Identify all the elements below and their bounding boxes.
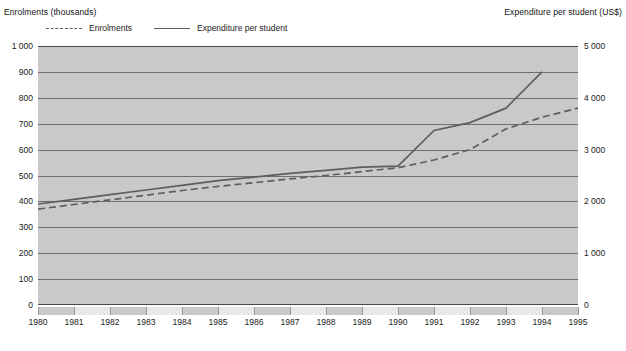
x-axis-tick bbox=[398, 307, 399, 315]
solid-line-icon bbox=[154, 28, 190, 29]
right-tick-label: 5 000 bbox=[584, 42, 605, 51]
left-tick-label: 700 bbox=[19, 120, 33, 129]
right-tick-label: 2 000 bbox=[584, 197, 605, 206]
left-tick-label: 100 bbox=[19, 275, 33, 284]
right-tick-label: 1 000 bbox=[584, 249, 605, 258]
x-tick-label: 1982 bbox=[101, 318, 120, 327]
left-tick-label: 1 000 bbox=[12, 42, 33, 51]
x-axis-band bbox=[38, 307, 74, 315]
x-axis-tick bbox=[290, 307, 291, 315]
x-tick-label: 1984 bbox=[173, 318, 192, 327]
left-tick-label: 500 bbox=[19, 172, 33, 181]
plot-area bbox=[38, 46, 578, 305]
x-axis-band bbox=[254, 307, 290, 315]
x-tick-label: 1986 bbox=[245, 318, 264, 327]
left-axis-labels: 01002003004005006007008009001 000 bbox=[0, 46, 33, 305]
x-axis-band bbox=[290, 307, 326, 315]
dashed-line-icon bbox=[46, 28, 82, 29]
x-axis-tick bbox=[470, 307, 471, 315]
x-axis-band bbox=[362, 307, 398, 315]
left-tick-label: 0 bbox=[28, 301, 33, 310]
right-tick-label: 0 bbox=[584, 301, 589, 310]
x-axis-band bbox=[218, 307, 254, 315]
x-tick-label: 1995 bbox=[569, 318, 588, 327]
chart-container: Enrolments (thousands) Expenditure per s… bbox=[0, 0, 626, 351]
x-tick-label: 1992 bbox=[461, 318, 480, 327]
x-axis-tick bbox=[506, 307, 507, 315]
x-tick-label: 1983 bbox=[137, 318, 156, 327]
x-axis-band bbox=[182, 307, 218, 315]
x-axis-band bbox=[398, 307, 434, 315]
x-axis-tick bbox=[362, 307, 363, 315]
left-tick-label: 200 bbox=[19, 249, 33, 258]
left-tick-label: 600 bbox=[19, 146, 33, 155]
chart-legend: EnrolmentsExpenditure per student bbox=[46, 24, 287, 33]
x-tick-label: 1994 bbox=[533, 318, 552, 327]
x-axis-band bbox=[434, 307, 470, 315]
x-axis-band bbox=[110, 307, 146, 315]
x-axis-tick bbox=[218, 307, 219, 315]
x-tick-label: 1990 bbox=[389, 318, 408, 327]
x-axis-tick bbox=[578, 307, 579, 315]
legend-label: Expenditure per student bbox=[197, 24, 287, 33]
left-tick-label: 400 bbox=[19, 197, 33, 206]
x-axis-band bbox=[542, 307, 578, 315]
x-tick-label: 1980 bbox=[29, 318, 48, 327]
x-axis-tick bbox=[110, 307, 111, 315]
x-axis-tick bbox=[146, 307, 147, 315]
x-axis-band bbox=[146, 307, 182, 315]
x-tick-label: 1981 bbox=[65, 318, 84, 327]
right-axis-labels: 01 0002 0003 0004 0005 000 bbox=[584, 46, 626, 305]
left-axis-title: Enrolments (thousands) bbox=[4, 7, 96, 17]
x-axis-band bbox=[506, 307, 542, 315]
legend-label: Enrolments bbox=[89, 24, 132, 33]
x-tick-label: 1985 bbox=[209, 318, 228, 327]
series-line-2 bbox=[38, 72, 542, 204]
x-tick-label: 1987 bbox=[281, 318, 300, 327]
series-lines bbox=[38, 46, 578, 305]
x-axis-tick bbox=[254, 307, 255, 315]
x-tick-label: 1991 bbox=[425, 318, 444, 327]
right-axis-title: Expenditure per student (US$) bbox=[504, 7, 622, 17]
x-axis-band bbox=[326, 307, 362, 315]
x-axis-tick bbox=[74, 307, 75, 315]
x-axis-tick bbox=[434, 307, 435, 315]
left-tick-label: 900 bbox=[19, 68, 33, 77]
legend-item-1: Enrolments bbox=[46, 24, 132, 33]
x-axis-band bbox=[74, 307, 110, 315]
x-tick-label: 1989 bbox=[353, 318, 372, 327]
x-axis-strip bbox=[38, 307, 578, 315]
x-axis-tick bbox=[38, 307, 39, 315]
x-axis-band bbox=[470, 307, 506, 315]
left-tick-label: 800 bbox=[19, 94, 33, 103]
x-tick-label: 1988 bbox=[317, 318, 336, 327]
right-tick-label: 4 000 bbox=[584, 94, 605, 103]
right-tick-label: 3 000 bbox=[584, 146, 605, 155]
x-axis-tick bbox=[326, 307, 327, 315]
legend-item-2: Expenditure per student bbox=[154, 24, 287, 33]
x-axis-tick bbox=[182, 307, 183, 315]
x-tick-label: 1993 bbox=[497, 318, 516, 327]
x-axis-labels: 1980198119821983198419851986198719881989… bbox=[0, 318, 626, 334]
x-axis-tick bbox=[542, 307, 543, 315]
left-tick-label: 300 bbox=[19, 223, 33, 232]
